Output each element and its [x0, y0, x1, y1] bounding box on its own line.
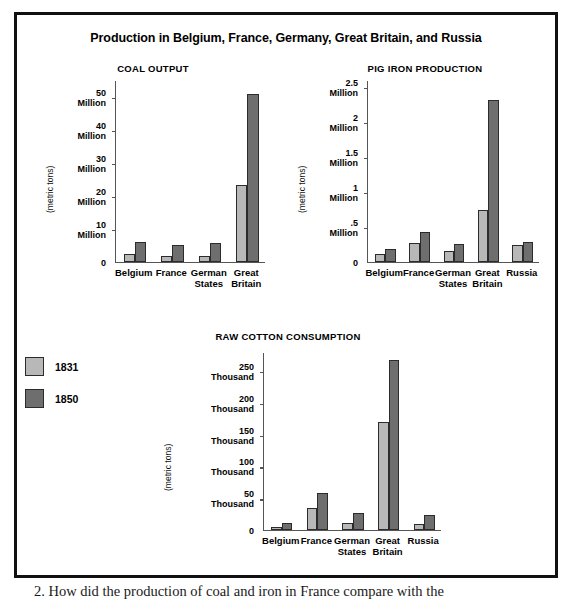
legend-swatch-1850 — [25, 389, 44, 408]
x-tick-label: GermanStates — [334, 535, 370, 557]
bar-1850 — [210, 243, 221, 262]
y-tick-label: 1.5Million — [330, 148, 359, 168]
bar-1831 — [414, 524, 425, 530]
x-tick-label: GreatBritain — [373, 535, 403, 557]
y-axis-ticks-coal-output: 010Million20Million30Million40Million50M… — [37, 63, 111, 311]
bar-1850 — [389, 360, 400, 530]
bar-1850 — [424, 515, 435, 530]
y-tick-label: 2.5Million — [330, 78, 359, 98]
bar-1831 — [199, 256, 210, 262]
plot-area-coal-output — [115, 81, 265, 263]
x-tick-label: GreatBritain — [472, 267, 502, 289]
x-tick-label: Russia — [506, 267, 537, 278]
bar-group — [414, 352, 435, 530]
chart-pig-iron-production: PIG IRON PRODUCTION (metric tons) 0.5Mil… — [289, 63, 561, 311]
bar-group — [199, 80, 222, 262]
y-tick-mark — [364, 158, 368, 159]
y-tick-label: 150Thousand — [211, 426, 254, 446]
y-tick-label: 0 — [249, 526, 254, 536]
figure-caption: 2. How did the production of coal and ir… — [34, 583, 554, 600]
figure-frame: Production in Belgium, France, Germany, … — [14, 12, 558, 578]
bar-1850 — [523, 242, 533, 262]
bar-1831 — [271, 527, 282, 530]
bar-group — [124, 80, 147, 262]
bar-group — [307, 352, 328, 530]
bar-group — [342, 352, 363, 530]
y-tick-mark — [112, 131, 116, 132]
x-tick-label: Belgium — [365, 267, 402, 278]
y-tick-label: 0 — [353, 258, 358, 268]
y-tick-mark — [260, 404, 264, 405]
y-tick-label: 1Million — [330, 183, 359, 203]
bar-1831 — [478, 210, 488, 262]
y-tick-mark — [260, 499, 264, 500]
y-tick-mark — [260, 372, 264, 373]
figure-title: Production in Belgium, France, Germany, … — [17, 31, 555, 45]
bar-1850 — [172, 245, 183, 262]
x-tick-label: Belgium — [262, 535, 299, 546]
bar-1850 — [247, 94, 258, 262]
y-tick-mark — [112, 230, 116, 231]
bar-group — [236, 80, 259, 262]
bar-group — [161, 80, 184, 262]
y-tick-mark — [364, 123, 368, 124]
bar-group — [378, 352, 399, 530]
bar-1831 — [375, 254, 385, 262]
bar-1831 — [161, 256, 172, 262]
bar-1850 — [282, 523, 293, 530]
bar-group — [271, 352, 292, 530]
bar-1831 — [124, 254, 135, 262]
bar-1831 — [307, 508, 318, 530]
y-tick-mark — [112, 164, 116, 165]
bar-1850 — [488, 100, 498, 262]
legend-item-1850: 1850 — [25, 389, 78, 408]
y-tick-mark — [112, 197, 116, 198]
y-axis-ticks-pig-iron-production: 0.5Million1Million1.5Million2Million2.5M… — [289, 63, 363, 311]
legend-label-1831: 1831 — [55, 361, 78, 373]
bar-1850 — [385, 249, 395, 262]
y-tick-mark — [260, 467, 264, 468]
legend: 18311850 — [25, 357, 78, 421]
y-tick-mark — [112, 98, 116, 99]
plot-area-raw-cotton-consumption — [263, 353, 441, 531]
y-tick-label: 20Million — [78, 187, 107, 207]
x-tick-label: Russia — [408, 535, 439, 546]
y-tick-mark — [364, 193, 368, 194]
y-tick-mark — [364, 228, 368, 229]
bar-1850 — [454, 244, 464, 262]
y-tick-label: 200Thousand — [211, 394, 254, 414]
y-tick-mark — [364, 88, 368, 89]
x-tick-label: France — [156, 267, 187, 278]
bar-1850 — [420, 232, 430, 262]
bar-group — [512, 80, 533, 262]
x-tick-label: France — [301, 535, 332, 546]
y-tick-label: 10Million — [78, 220, 107, 240]
chart-coal-output: COAL OUTPUT (metric tons) 010Million20Mi… — [17, 63, 289, 311]
x-tick-label: France — [403, 267, 434, 278]
bar-1850 — [353, 513, 364, 530]
x-tick-label: GreatBritain — [231, 267, 261, 289]
bar-1831 — [236, 185, 247, 262]
bar-1831 — [378, 422, 389, 530]
legend-item-1831: 1831 — [25, 357, 78, 376]
x-tick-label: GermanStates — [435, 267, 471, 289]
x-tick-label: GermanStates — [191, 267, 227, 289]
x-tick-label: Belgium — [115, 267, 152, 278]
y-tick-label: 40Million — [78, 121, 107, 141]
bar-1850 — [317, 493, 328, 530]
chart-raw-cotton-consumption: RAW COTTON CONSUMPTION (metric tons) 050… — [123, 331, 453, 579]
y-tick-label: .5Million — [330, 218, 359, 238]
y-tick-label: 2Million — [330, 113, 359, 133]
y-tick-label: 50Thousand — [211, 489, 254, 509]
bar-group — [375, 80, 396, 262]
bar-1831 — [512, 245, 522, 263]
bar-1831 — [444, 251, 454, 262]
y-axis-ticks-raw-cotton-consumption: 050Thousand100Thousand150Thousand200Thou… — [169, 331, 253, 579]
y-tick-label: 100Thousand — [211, 457, 254, 477]
plot-area-pig-iron-production — [367, 81, 539, 263]
y-tick-label: 50Million — [78, 88, 107, 108]
bar-group — [444, 80, 465, 262]
bar-1831 — [409, 243, 419, 262]
legend-label-1850: 1850 — [55, 393, 78, 405]
bar-1850 — [135, 242, 146, 262]
